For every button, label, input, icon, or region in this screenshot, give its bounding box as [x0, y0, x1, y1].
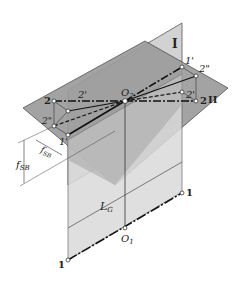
label-o1: O1 [121, 233, 134, 246]
dim-ext-1 [18, 126, 54, 143]
label-2-right: 2 [200, 95, 207, 106]
label-2dprime-left: 2" [41, 116, 52, 126]
label-1prime-left: 1' [59, 136, 68, 147]
label-2dprime-right: 2" [198, 63, 210, 74]
label-2-left: 2 [44, 95, 51, 106]
point-2prime-left [66, 109, 70, 113]
point-2prime-right [180, 90, 184, 94]
label-dim-fsb-diagonal: fSB [38, 144, 54, 159]
point-1prime-right [180, 65, 184, 69]
point-1-bottom-right [180, 191, 184, 195]
label-plane-I: I [172, 37, 178, 51]
label-2prime-right: 2' [185, 89, 195, 100]
point-2dprime-left [52, 124, 56, 128]
point-1-bottom-left [66, 258, 70, 262]
point-2-left [52, 99, 56, 103]
label-plane-II: II [208, 94, 218, 105]
label-1prime-right: 1' [185, 55, 194, 66]
label-dim-fsb-vertical: fSB [15, 159, 30, 172]
label-2prime-left: 2' [77, 89, 87, 100]
point-2dprime-right [194, 74, 198, 78]
point-o2 [123, 99, 128, 104]
label-1-bottom-right: 1 [186, 187, 193, 198]
projection-diagram: I II O2 O1 1' 2" 2' 2 2 2' 2" 1' 1 1 fSB… [0, 0, 243, 287]
label-1-bottom-left: 1 [58, 259, 65, 270]
point-o1 [123, 226, 127, 230]
